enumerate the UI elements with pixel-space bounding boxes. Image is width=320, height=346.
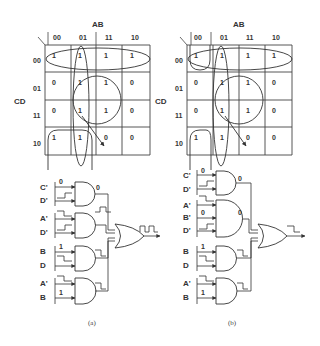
and-gate-4	[75, 278, 96, 304]
input-label: B	[183, 247, 189, 256]
kmap-b-col-headers: 00 01 11 10	[194, 34, 280, 41]
cell: 1	[246, 52, 250, 59]
col-header: 10	[131, 34, 139, 41]
circuit-b-inputs	[197, 175, 216, 298]
glitch-output-waveform	[140, 226, 158, 232]
cell: 0	[52, 79, 56, 86]
cell: 1	[246, 107, 250, 114]
cell: 1	[52, 134, 56, 141]
input-mark: 0	[201, 167, 205, 174]
cell: 1	[104, 79, 108, 86]
caption-a: (a)	[88, 319, 96, 327]
input-label: D	[40, 261, 46, 270]
step-down-waveform	[199, 256, 214, 261]
clean-output-waveform	[287, 226, 300, 232]
circuit-a: C' D' A' D' B D A' B 0 1 1	[40, 178, 160, 327]
step-up-waveform	[57, 193, 72, 198]
hazard-diagram: AB CD 00 01 11 10 00 01 11 10 1 1 1	[0, 0, 320, 346]
row-header: 10	[175, 140, 183, 147]
input-label: A'	[40, 214, 48, 223]
kmap-a-row-headers: 00 01 11 10	[33, 57, 41, 147]
pulse-waveform	[95, 207, 111, 212]
row-header: 01	[175, 85, 183, 92]
row-header: 01	[33, 85, 41, 92]
cell: 0	[272, 134, 276, 141]
input-mark: 1	[59, 289, 63, 296]
cell: 0	[104, 134, 108, 141]
step-down-waveform	[95, 283, 106, 289]
and-gate-3	[216, 246, 237, 271]
cell: 1	[272, 52, 276, 59]
input-label: D'	[40, 228, 48, 237]
cell: 1	[220, 52, 224, 59]
input-label: D'	[183, 226, 191, 235]
step-up-waveform	[199, 181, 214, 186]
col-header: 01	[220, 34, 228, 41]
output-mark: 0	[238, 209, 242, 216]
input-mark: 0	[59, 178, 63, 185]
circuit-b: C' D' A' B' D' B D A' B 0 0 1 1	[183, 167, 305, 327]
kmap-b-col-var: AB	[233, 20, 245, 29]
and-gate-2	[75, 213, 96, 238]
input-label: B	[40, 247, 46, 256]
cell: 0	[130, 79, 134, 86]
input-label: B	[40, 293, 46, 302]
cell: 1	[104, 52, 108, 59]
input-label: A'	[40, 279, 48, 288]
cell: 1	[220, 134, 224, 141]
cell: 1	[220, 107, 224, 114]
kmap-a-col-var: AB	[92, 20, 104, 29]
step-down-waveform	[237, 283, 248, 289]
cell: 0	[194, 107, 198, 114]
kmap-a-grid	[45, 45, 150, 155]
cell: 1	[104, 107, 108, 114]
cell: 1	[78, 52, 82, 59]
col-header: 11	[246, 34, 254, 41]
col-header: 11	[105, 34, 113, 41]
row-header: 11	[33, 112, 41, 119]
kmap-a-groupings	[46, 46, 150, 170]
cell: 1	[78, 107, 82, 114]
step-down-waveform	[95, 250, 106, 256]
cell: 0	[272, 79, 276, 86]
step-down-waveform	[237, 250, 248, 256]
cell: 1	[246, 79, 250, 86]
input-mark: 1	[201, 289, 205, 296]
input-mark: 0	[201, 209, 205, 216]
row-header: 00	[33, 57, 41, 64]
kmap-b-row-var: CD	[155, 97, 167, 106]
kmap-a-row-var: CD	[14, 97, 26, 106]
output-mark: 0	[238, 175, 242, 182]
step-up-waveform	[199, 224, 214, 229]
cell: 0	[194, 79, 198, 86]
input-label: B	[183, 293, 189, 302]
cell: 0	[130, 134, 134, 141]
input-label: A'	[183, 201, 191, 210]
step-down-waveform	[57, 211, 72, 216]
input-label: D	[183, 261, 189, 270]
col-header: 00	[194, 34, 202, 41]
kmap-b-cells: 1 1 1 1 0 1 1 0 0 1 1 0 1 1 0 0	[194, 52, 276, 141]
step-down-waveform	[57, 256, 72, 261]
output-mark: 0	[96, 184, 100, 191]
step-up-waveform	[57, 225, 72, 230]
cell: 1	[78, 134, 82, 141]
caption-b: (b)	[228, 319, 237, 327]
cell: 0	[246, 134, 250, 141]
input-label: D'	[183, 185, 191, 194]
and-gate-2	[216, 200, 243, 237]
input-label: B'	[183, 213, 191, 222]
cell: 1	[194, 134, 198, 141]
cell: 1	[130, 52, 134, 59]
kmap-b-row-headers: 00 01 11 10	[175, 57, 183, 147]
row-header: 11	[175, 112, 183, 119]
input-label: C'	[183, 171, 191, 180]
cell: 0	[52, 107, 56, 114]
kmap-b-groupings	[188, 45, 292, 170]
col-header: 01	[79, 34, 87, 41]
kmap-b: AB CD 00 01 11 10 00 01 11 10 1 1 1	[155, 20, 292, 170]
cell: 0	[130, 107, 134, 114]
row-header: 00	[175, 57, 183, 64]
step-down-waveform	[199, 276, 214, 281]
input-label: D'	[40, 196, 48, 205]
